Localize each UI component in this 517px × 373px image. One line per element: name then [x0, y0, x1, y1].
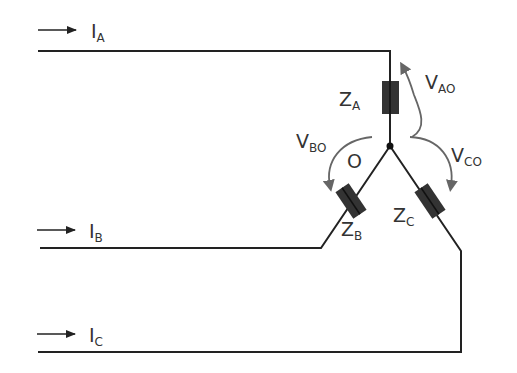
wire-phase-a: [38, 51, 390, 146]
impedance-label-c: ZC: [393, 204, 414, 229]
star-circuit-diagram: IA IB IC ZA ZB ZC VAO VBO VCO O: [0, 0, 517, 373]
voltage-arrow-ao: [403, 67, 421, 137]
current-label-a: IA: [91, 20, 106, 45]
voltage-label-bo: VBO: [296, 130, 326, 155]
voltage-arrow-co: [410, 137, 452, 186]
neutral-junction: [387, 143, 394, 150]
voltage-label-co: VCO: [451, 144, 482, 169]
impedance-label-b: ZB: [341, 218, 362, 243]
impedance-label-a: ZA: [339, 88, 361, 113]
neutral-label: O: [347, 150, 362, 172]
current-label-b: IB: [89, 220, 103, 245]
current-label-c: IC: [89, 324, 103, 349]
voltage-label-ao: VAO: [425, 71, 455, 96]
